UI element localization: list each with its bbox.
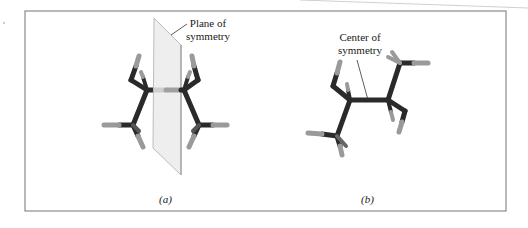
panel-a-caption: (a) bbox=[159, 193, 172, 205]
page-edge-shadow bbox=[300, 0, 528, 8]
center-label-line2: symmetry bbox=[338, 44, 382, 57]
page-artifact-dot bbox=[3, 22, 5, 24]
panel-b-caption: (b) bbox=[361, 193, 374, 205]
plane-of-symmetry bbox=[153, 18, 181, 175]
center-of-symmetry-label: Center of symmetry bbox=[338, 31, 382, 57]
plane-of-symmetry-label: Plane of symmetry bbox=[186, 17, 230, 43]
figure-frame bbox=[25, 11, 506, 211]
plane-label-line1: Plane of bbox=[186, 17, 230, 30]
figure-canvas bbox=[0, 0, 528, 228]
center-label-line1: Center of bbox=[338, 31, 382, 44]
plane-label-line2: symmetry bbox=[186, 30, 230, 43]
